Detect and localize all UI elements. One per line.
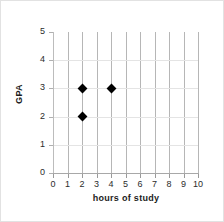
y-tick-label: 1 <box>29 139 45 150</box>
y-tick <box>49 117 53 118</box>
x-tick <box>53 174 54 178</box>
x-tick <box>169 174 170 178</box>
y-tick-label: 4 <box>29 54 45 65</box>
x-tick <box>111 174 112 178</box>
y-tick <box>49 60 53 61</box>
x-tick <box>68 174 69 178</box>
x-tick <box>184 174 185 178</box>
y-axis-title: GPA <box>14 84 24 104</box>
horizontal-gridline <box>53 145 198 146</box>
scatter-chart-figure: 012345678910 012345 hours of study GPA <box>0 0 224 222</box>
x-tick <box>126 174 127 178</box>
y-tick <box>49 173 53 174</box>
vertical-gridline <box>155 32 156 173</box>
horizontal-gridline <box>53 88 198 89</box>
x-tick-label: 10 <box>188 179 208 190</box>
x-tick <box>97 174 98 178</box>
plot-area <box>53 32 198 173</box>
x-tick <box>140 174 141 178</box>
x-tick <box>155 174 156 178</box>
vertical-gridline <box>169 32 170 173</box>
y-axis-line <box>53 32 54 174</box>
x-tick <box>198 174 199 178</box>
y-tick-label: 0 <box>29 167 45 178</box>
y-tick-label: 2 <box>29 111 45 122</box>
data-point <box>77 112 87 122</box>
y-tick-label: 3 <box>29 82 45 93</box>
y-tick <box>49 145 53 146</box>
vertical-gridline <box>126 32 127 173</box>
vertical-gridline <box>140 32 141 173</box>
data-point <box>77 83 87 93</box>
data-point <box>106 83 116 93</box>
y-tick <box>49 88 53 89</box>
y-tick <box>49 32 53 33</box>
vertical-gridline <box>82 32 83 173</box>
vertical-gridline <box>97 32 98 173</box>
x-axis-title: hours of study <box>53 193 199 203</box>
vertical-gridline <box>184 32 185 173</box>
horizontal-gridline <box>53 60 198 61</box>
x-tick <box>82 174 83 178</box>
vertical-gridline <box>198 32 199 173</box>
vertical-gridline <box>68 32 69 173</box>
horizontal-gridline <box>53 117 198 118</box>
vertical-gridline <box>111 32 112 173</box>
y-tick-label: 5 <box>29 26 45 37</box>
